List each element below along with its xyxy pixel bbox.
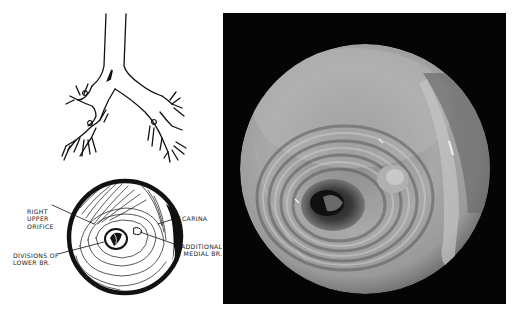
label-line: MEDIAL BR. <box>181 250 222 257</box>
label-carina: CARINA <box>182 215 207 222</box>
arrow-down-icon <box>108 70 112 80</box>
bronchoscopic-photograph <box>223 13 506 304</box>
bronchial-tree-drawing <box>0 0 215 314</box>
label-divisions-of-lower-br: DIVISIONS OF LOWER BR. <box>13 252 59 267</box>
label-line: DIVISIONS OF <box>13 252 59 259</box>
label-line: UPPER <box>27 215 54 222</box>
label-line: ADDITIONAL <box>181 243 222 250</box>
label-line: CARINA <box>182 215 207 222</box>
label-right-upper-orifice: RIGHT UPPER ORIFICE <box>27 208 54 230</box>
label-additional-medial-br: ADDITIONAL MEDIAL BR. <box>181 243 222 258</box>
label-line: LOWER BR. <box>13 259 59 266</box>
bronchial-diagrams: RIGHT UPPER ORIFICE DIVISIONS OF LOWER B… <box>0 0 215 314</box>
label-line: RIGHT <box>27 208 54 215</box>
label-line: ORIFICE <box>27 223 54 230</box>
endoscopic-view-drawing <box>52 181 181 293</box>
